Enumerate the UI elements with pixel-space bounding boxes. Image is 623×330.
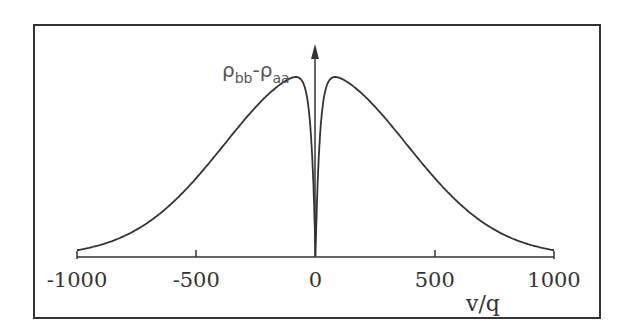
x-tick-label: 0 <box>309 268 322 292</box>
x-axis-label: v/q <box>465 291 500 316</box>
arrow-up-icon <box>311 44 319 59</box>
x-tick-labels: -1000-50005001000 <box>47 268 581 292</box>
x-tick-label: -500 <box>173 268 220 292</box>
chart: -1000-50005001000 v/q ρbb-ρaa <box>0 0 623 330</box>
y-axis-label: ρbb-ρaa <box>222 58 290 86</box>
x-tick-label: -1000 <box>47 268 108 292</box>
x-tick-label: 500 <box>415 268 455 292</box>
x-tick-label: 1000 <box>527 268 580 292</box>
